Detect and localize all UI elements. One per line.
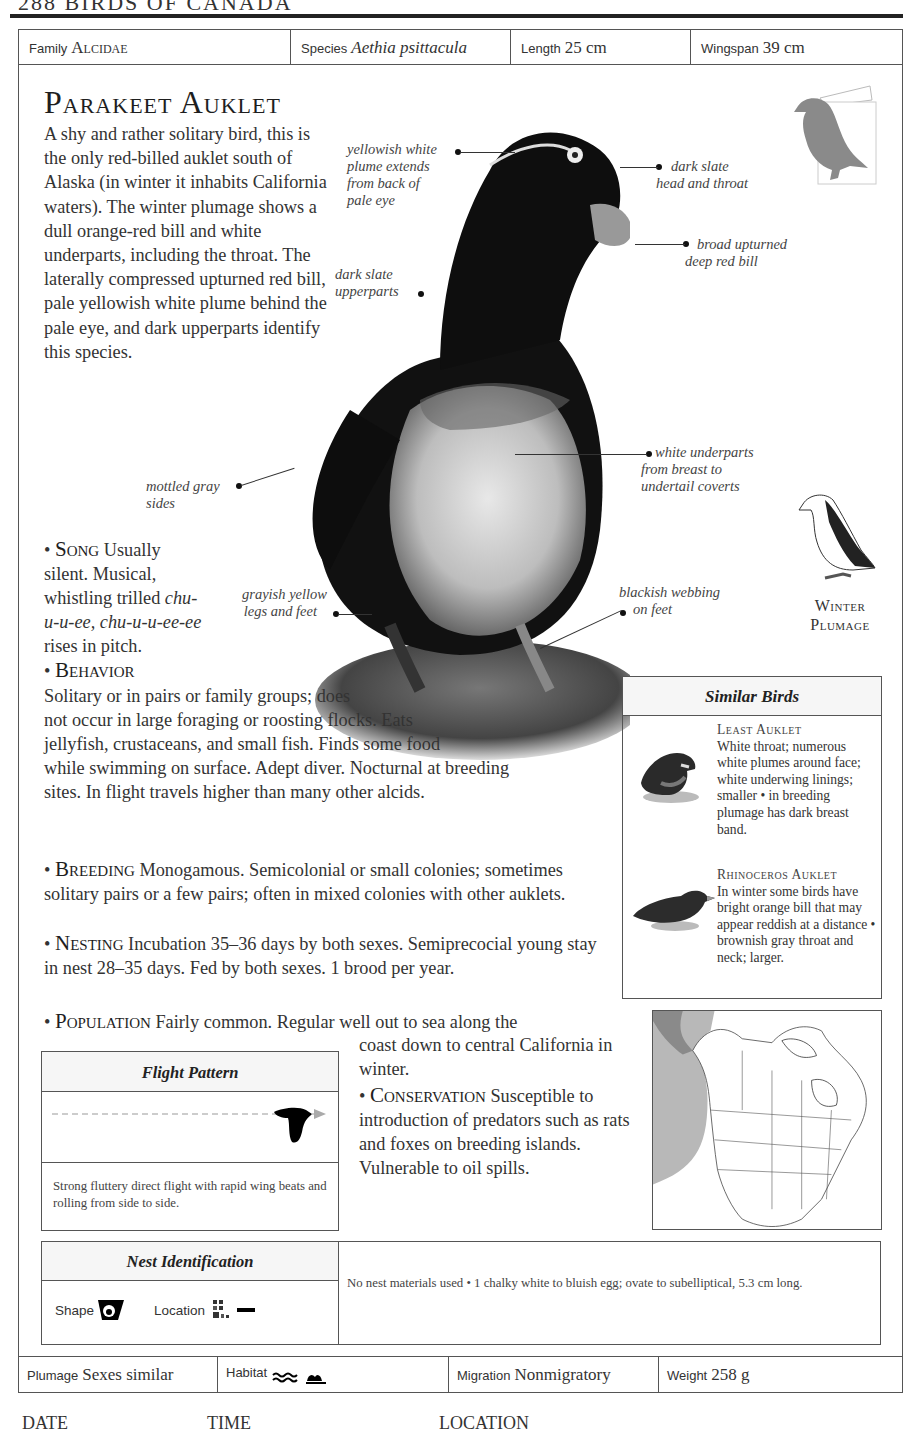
plumage-cell: Plumage Sexes similar (19, 1357, 218, 1392)
callout-leader (338, 614, 372, 615)
nesting-text: Incubation 35–36 days by both sexes. Sem… (44, 934, 597, 978)
callout-webbing: blackish webbing on feet (619, 584, 720, 618)
weight-label: Weight (667, 1368, 707, 1383)
nest-location-ground-icon (237, 1308, 255, 1312)
migration-cell: Migration Nonmigratory (449, 1357, 659, 1392)
location-label: LOCATION (439, 1413, 529, 1433)
callout-legs: grayish yellow legs and feet (242, 586, 327, 620)
song-section: • Song Usually silent. Musical, whistlin… (44, 537, 204, 658)
breeding-heading: Breeding (55, 857, 135, 881)
length-cell: Length 25 cm (511, 30, 691, 64)
callout-line: legs and feet (242, 603, 327, 620)
family-cell: Family Alcidae (19, 30, 291, 64)
habitat-label: Habitat (226, 1365, 267, 1380)
callout-line: pale eye (347, 192, 437, 209)
bird-silhouette-icon (780, 78, 895, 188)
date-blank[interactable] (74, 1416, 199, 1433)
conservation-section: • Conservation Susceptible to introducti… (359, 1083, 644, 1180)
bird-photo (290, 110, 630, 760)
length-label: Length (521, 41, 561, 56)
winter-plumage-caption: Winter Plumage (792, 596, 888, 634)
flight-path-icon (42, 1092, 338, 1162)
callout-line: plume extends (347, 158, 437, 175)
callout-leader (515, 454, 647, 455)
wingspan-cell: Wingspan 39 cm (691, 30, 902, 64)
callout-leader (620, 167, 658, 168)
flight-pattern-diagram (42, 1092, 338, 1163)
nest-location-crevice-icon (211, 1298, 231, 1322)
similar-bird-rhinoceros-auklet: Rhinoceros Auklet In winter some birds h… (717, 867, 877, 967)
callout-line: dark slate (335, 266, 399, 283)
conservation-heading: Conservation (370, 1083, 486, 1107)
nest-identification-heading: Nest Identification (42, 1242, 338, 1281)
similar-bird-name: Least Auklet (717, 722, 877, 739)
callout-line: broad upturned (697, 236, 787, 253)
observation-log: DATE TIME LOCATION (22, 1413, 529, 1433)
weight-cell: Weight 258 g (659, 1357, 902, 1392)
range-map (652, 1010, 882, 1230)
flight-pattern-panel: Flight Pattern Strong fluttery direct fl… (41, 1051, 339, 1231)
callout-line: white underparts (641, 444, 754, 461)
rocky-island-icon (306, 1371, 326, 1385)
similar-birds-heading: Similar Birds (623, 677, 881, 716)
bullet: • (44, 860, 55, 880)
breeding-section: • Breeding Monogamous. Semicolonial or s… (44, 857, 614, 906)
date-field[interactable]: DATE (22, 1413, 199, 1433)
species-cell: Species Aethia psittacula (291, 30, 511, 64)
callout-plume: yellowish white plume extends from back … (347, 141, 437, 209)
population-heading: Population (55, 1009, 151, 1033)
time-blank[interactable] (251, 1416, 411, 1433)
nesting-section: • Nesting Incubation 35–36 days by both … (44, 931, 614, 980)
rhinoceros-auklet-image (631, 882, 715, 932)
migration-value: Nonmigratory (514, 1365, 610, 1384)
similar-bird-description: White throat; numerous white plumes arou… (717, 739, 877, 839)
callout-line: grayish yellow (242, 586, 327, 603)
time-field[interactable]: TIME (207, 1413, 411, 1433)
callout-line: from breast to (641, 461, 754, 478)
habitat-cell: Habitat (218, 1357, 449, 1392)
length-value: 25 cm (565, 38, 607, 57)
callout-head: dark slate head and throat (656, 158, 748, 192)
callout-line: sides (146, 495, 220, 512)
song-heading: Song (55, 537, 99, 561)
similar-bird-description: In winter some birds have bright orange … (717, 884, 877, 967)
callout-sides: mottled gray sides (146, 478, 220, 512)
least-auklet-image (631, 743, 701, 805)
nest-description: No nest materials used • 1 chalky white … (347, 1275, 867, 1292)
flight-pattern-heading: Flight Pattern (42, 1052, 338, 1092)
behavior-heading-block: • Behavior (44, 658, 135, 683)
nest-icons-row: Shape Location (42, 1281, 338, 1322)
time-label: TIME (207, 1413, 251, 1433)
wingspan-value: 39 cm (763, 38, 805, 57)
callout-underparts: white underparts from breast to undertai… (641, 444, 754, 495)
bottom-info-row: Plumage Sexes similar Habitat Migration … (18, 1356, 903, 1393)
callout-line: blackish webbing (619, 584, 720, 601)
nest-identification-left: Nest Identification Shape Location (42, 1242, 339, 1344)
top-rule (10, 14, 903, 18)
species-title: Parakeet Auklet (44, 84, 281, 121)
location-label: Location (154, 1303, 205, 1318)
wingspan-label: Wingspan (701, 41, 759, 56)
location-field[interactable]: LOCATION (439, 1413, 529, 1433)
callout-bill: broad upturned deep red bill (697, 236, 787, 270)
callout-line: dark slate (656, 158, 748, 175)
weight-value: 258 g (711, 1365, 749, 1384)
callout-leader (635, 244, 685, 245)
plumage-value: Sexes similar (82, 1365, 173, 1384)
nest-identification-panel: Nest Identification Shape Location No ne… (41, 1241, 881, 1345)
behavior-heading: Behavior (55, 658, 135, 682)
shape-label: Shape (55, 1303, 94, 1318)
nesting-heading: Nesting (55, 931, 124, 955)
callout-line: upperparts (335, 283, 399, 300)
callout-leader (460, 152, 515, 153)
bullet: • (44, 934, 55, 954)
population-continued: coast down to central California in wint… (359, 1033, 644, 1081)
callout-line: undertail coverts (641, 478, 754, 495)
date-label: DATE (22, 1413, 68, 1433)
bullet: • (44, 1012, 55, 1032)
species-value: Aethia psittacula (351, 38, 467, 57)
family-value: Alcidae (71, 38, 127, 57)
species-label: Species (301, 41, 347, 56)
similar-birds-panel: Similar Birds Least Auklet White throat;… (622, 676, 882, 999)
population-text: Fairly common. Regular well out to sea a… (151, 1012, 518, 1032)
